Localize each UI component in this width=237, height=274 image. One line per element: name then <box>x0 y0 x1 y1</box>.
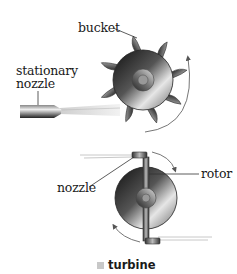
bucket-label: bucket <box>78 21 120 34</box>
caption-text: turbine <box>108 258 156 272</box>
turbine-diagram <box>0 0 237 274</box>
water-jet <box>60 104 120 116</box>
stationary-nozzle-body <box>20 105 61 118</box>
rotation-arrow-upper <box>152 152 175 170</box>
stationary-nozzle-label-line2: nozzle <box>16 77 55 90</box>
nozzle-label: nozzle <box>57 181 96 194</box>
rotor-label: rotor <box>201 167 232 180</box>
rotor-arm <box>132 152 160 244</box>
rotation-arrow-lower <box>114 226 140 242</box>
figure-caption: turbine <box>97 258 156 272</box>
caption-square-icon <box>97 262 104 269</box>
